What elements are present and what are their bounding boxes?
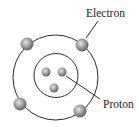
electron-label: Electron (86, 7, 125, 19)
electron-top-right (76, 39, 89, 52)
proton-leader-line (66, 76, 100, 99)
proton-label: Proton (103, 98, 134, 110)
proton-right (58, 68, 67, 77)
electron-bottom-right (74, 105, 87, 118)
electron-top-left (21, 38, 34, 51)
proton-left (42, 68, 51, 77)
proton-bottom (50, 84, 59, 93)
electron-leader-line (86, 21, 98, 38)
electron-bottom-left (14, 98, 27, 111)
atom-diagram: Electron Proton (0, 0, 139, 127)
